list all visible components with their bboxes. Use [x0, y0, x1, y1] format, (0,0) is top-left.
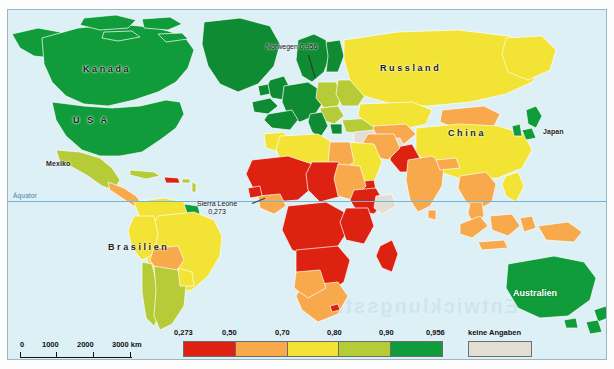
island-iceland: [252, 98, 278, 114]
legend-break-4: 0,90: [379, 328, 394, 337]
legend-category-2: mittel: [289, 359, 341, 360]
scale-tick-label-0: 0: [20, 340, 24, 349]
country-new-zealand-s: [586, 320, 602, 334]
scale-tick-label-3: 3000 km: [112, 340, 142, 349]
legend-swatch-sehr-niedrig: [184, 342, 235, 356]
country-nepal-bangladesh: [436, 158, 460, 170]
scale-tick-3: [130, 352, 131, 358]
region-west-africa-coast: [258, 194, 286, 214]
country-madagascar: [376, 240, 398, 272]
legend-break-1: 0,50: [222, 328, 237, 337]
equator-label: Äquator: [13, 192, 37, 199]
island-borneo: [490, 214, 520, 236]
scale-tick-2: [93, 352, 94, 358]
country-greece: [330, 124, 342, 134]
country-canada-arctic-2: [142, 17, 182, 30]
country-finland: [326, 40, 344, 72]
map-figure: Entwicklungsstand: [0, 0, 614, 369]
legend-break-5: 0,956: [426, 328, 445, 337]
country-somalia: [374, 194, 396, 214]
country-new-zealand-n: [594, 306, 607, 322]
legend-swatch-sehr-hoch: [390, 342, 442, 356]
island-java: [478, 240, 508, 250]
country-usa: [52, 100, 184, 156]
island-lesser-antilles: [192, 182, 196, 192]
scale-tick-label-1: 1000: [42, 340, 59, 349]
island-sumatra: [460, 216, 488, 238]
legend-swatch-hoch: [338, 342, 390, 356]
island-tasmania: [564, 318, 578, 328]
scale-tick-0: [20, 352, 21, 358]
scale-bar-line: [20, 357, 132, 358]
island-puerto-rico: [182, 179, 190, 183]
equator-line: [8, 201, 607, 202]
legend-break-3: 0,80: [327, 328, 342, 337]
legend-color-bar: [183, 341, 443, 357]
scale-bar-labels: 0 1000 2000 3000 km: [20, 340, 150, 351]
legend-break-labels: 0,273 0,50 0,70 0,80 0,90 0,956: [183, 328, 443, 340]
island-sri-lanka: [428, 210, 436, 220]
legend-break-0: 0,273: [174, 328, 193, 337]
legend-swatch-mittel: [287, 342, 339, 356]
legend: 0,273 0,50 0,70 0,80 0,90 0,956 sehr nie…: [183, 328, 443, 360]
legend-category-labels: sehr niedrig niedrig mittel hoch sehr ho…: [183, 359, 443, 360]
scale-bar: 0 1000 2000 3000 km: [20, 340, 150, 359]
scale-tick-1: [56, 352, 57, 358]
country-australia: [506, 256, 596, 318]
world-map-svg: [8, 10, 607, 360]
country-philippines: [502, 172, 524, 202]
island-hispaniola: [164, 177, 180, 183]
country-sierra-leone: [248, 186, 262, 198]
legend-nodata: keine Angaben: [468, 328, 532, 357]
legend-category-1: niedrig: [237, 359, 289, 360]
country-norway-sweden: [296, 34, 330, 82]
island-new-guinea: [538, 222, 582, 242]
country-greenland: [202, 18, 280, 92]
legend-nodata-swatch: [468, 341, 532, 357]
legend-swatch-niedrig: [235, 342, 287, 356]
legend-nodata-label: keine Angaben: [468, 328, 532, 340]
legend-category-3: hoch: [341, 359, 393, 360]
scale-bar-rule: [20, 352, 132, 359]
legend-break-2: 0,70: [275, 328, 290, 337]
scale-tick-label-2: 2000: [77, 340, 94, 349]
legend-category-0: sehr niedrig: [185, 359, 237, 360]
country-kenya-tanzania: [340, 208, 374, 244]
map-frame: Entwicklungsstand: [7, 9, 607, 360]
legend-category-4: sehr hoch: [391, 359, 447, 360]
country-ireland: [258, 84, 270, 96]
island-cuba: [130, 170, 160, 179]
country-korea: [512, 124, 522, 136]
country-japan: [526, 106, 542, 128]
island-sulawesi: [520, 216, 536, 232]
